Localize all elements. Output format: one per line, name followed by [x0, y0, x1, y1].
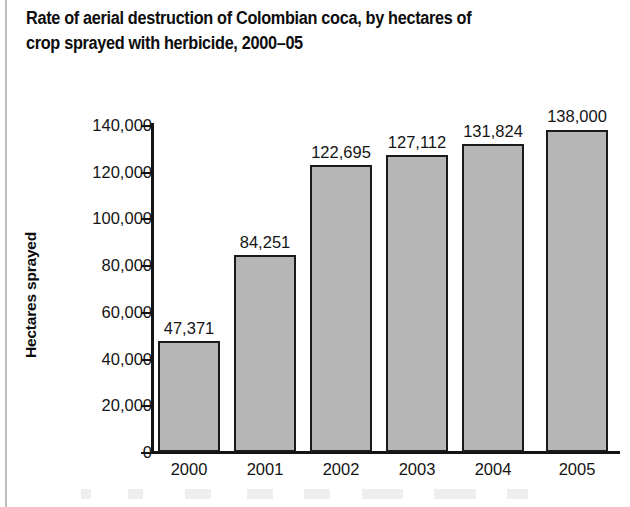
y-tick-label: 20,000: [64, 397, 152, 414]
bar-value-2005: 138,000: [532, 108, 622, 125]
y-tick-label: 40,000: [64, 351, 152, 368]
y-tick-40000: 40,000: [0, 359, 152, 361]
y-tick-label: 0: [64, 444, 152, 461]
bar-chart: Hectares sprayed 140,000 120,000 100,000…: [0, 0, 630, 507]
y-tick-label: 100,000: [64, 210, 152, 227]
x-tick-label-2003: 2003: [377, 461, 457, 478]
bar-value-2000: 47,371: [149, 320, 229, 337]
y-tick-80000: 80,000: [0, 265, 152, 267]
bar-2002: [310, 165, 372, 452]
y-tick-label: 60,000: [64, 304, 152, 321]
bar-2003: [386, 155, 448, 452]
x-tick-label-2000: 2000: [149, 461, 229, 478]
x-tick-label-2002: 2002: [301, 461, 381, 478]
bar-value-2004: 131,824: [448, 123, 538, 140]
scan-bleedthrough: [60, 489, 580, 499]
bar-2004: [462, 144, 524, 452]
y-tick-60000: 60,000: [0, 312, 152, 314]
y-tick-label: 120,000: [64, 164, 152, 181]
y-tick-label: 140,000: [64, 117, 152, 134]
x-tick-label-2004: 2004: [453, 461, 533, 478]
bar-2005: [546, 130, 608, 452]
y-tick-100000: 100,000: [0, 218, 152, 220]
y-tick-0: 0: [0, 452, 152, 454]
bar-value-2001: 84,251: [225, 234, 305, 251]
y-tick-20000: 20,000: [0, 405, 152, 407]
bar-2001: [234, 255, 296, 452]
bar-2000: [158, 341, 220, 452]
x-tick-label-2001: 2001: [225, 461, 305, 478]
x-tick-label-2005: 2005: [537, 461, 617, 478]
y-tick-120000: 120,000: [0, 172, 152, 174]
y-tick-140000: 140,000: [0, 125, 152, 127]
y-tick-label: 80,000: [64, 257, 152, 274]
y-axis-title: Hectares sprayed: [22, 195, 40, 395]
